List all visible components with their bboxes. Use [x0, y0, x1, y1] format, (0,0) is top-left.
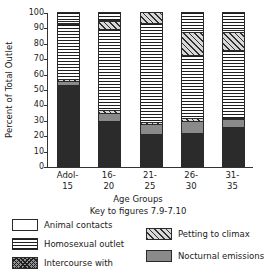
x-axis-tick-label-line: 35	[209, 181, 255, 192]
legend-swatch-checker	[12, 257, 38, 269]
y-axis-tick-label: 40	[18, 101, 44, 109]
bar-segment-homosexual2	[99, 13, 120, 21]
bar-segment-intercourse	[99, 122, 120, 166]
bar-segment-homosexual2	[182, 13, 203, 31]
bar-segment-petting2	[223, 33, 244, 51]
y-axis-title: Percent of Total Outlet	[2, 20, 16, 160]
y-axis-tick-mark	[44, 75, 48, 76]
bars-container	[48, 13, 253, 168]
y-axis-tick-mark	[44, 44, 48, 45]
bar-segment-intercourse	[58, 86, 79, 166]
x-axis-tick-label-line: 25	[127, 181, 173, 192]
y-axis-tick-label: 70	[18, 55, 44, 63]
bar-segment-nocturnal	[141, 125, 162, 136]
bar-segment-homosexual	[141, 24, 162, 123]
y-axis-tick-label: 20	[18, 132, 44, 140]
bar-segment-petting2	[99, 22, 120, 30]
y-axis-tick-mark	[44, 167, 48, 168]
y-axis-tick-label: 60	[18, 71, 44, 79]
y-axis-tick-mark	[44, 28, 48, 29]
bar-segment-homosexual	[99, 30, 120, 111]
x-axis-tick-labels: Adol-1516-2021-2526-3031-35	[47, 170, 253, 194]
x-axis-tick-label-line: 31-	[209, 170, 255, 181]
x-axis-tick-label-line: 21-	[127, 170, 173, 181]
bar-segment-intercourse	[141, 135, 162, 166]
bar-segment-homosexual2	[223, 13, 244, 31]
bar-2	[98, 12, 121, 167]
legend-title: Key to figures 7.9-7.10	[0, 206, 276, 216]
bar-segment-homosexual	[223, 51, 244, 118]
bar-segment-homosexual	[182, 56, 203, 119]
bar-segment-petting2	[141, 13, 162, 24]
y-axis-tick-mark	[44, 59, 48, 60]
bar-segment-intercourse	[182, 134, 203, 166]
legend-swatch-white	[12, 219, 38, 231]
bar-4	[181, 12, 204, 167]
stacked-bar-chart: Percent of Total Outlet 1009080706050403…	[0, 0, 276, 196]
y-axis-tick-mark	[44, 136, 48, 137]
y-axis-tick-label: 30	[18, 117, 44, 125]
x-axis-tick-label-line: 16-	[86, 170, 132, 181]
bar-1	[57, 12, 80, 167]
legend-label: Intercourse with	[44, 258, 113, 268]
y-axis-tick-mark	[44, 90, 48, 91]
legend-item: Intercourse with	[12, 257, 113, 269]
legend-swatch-solid-gray	[146, 250, 172, 262]
x-axis-tick-label-line: Adol-	[45, 170, 91, 181]
legend-swatch-diagonal-hatch	[146, 228, 172, 240]
y-axis-tick-mark	[44, 121, 48, 122]
y-axis-tick-label: 80	[18, 40, 44, 48]
x-axis-tick-label-line: 20	[86, 181, 132, 192]
bar-segment-nocturnal	[99, 114, 120, 122]
x-axis-tick-label-line: 26-	[168, 170, 214, 181]
y-axis-tick-mark	[44, 105, 48, 106]
x-axis-tick-label-line: 30	[168, 181, 214, 192]
bar-3	[140, 12, 163, 167]
legend-label: Homosexual outlet	[44, 239, 124, 249]
y-axis-tick-mark	[44, 13, 48, 14]
y-axis-tick-label: 90	[18, 24, 44, 32]
y-axis-tick-label: 10	[18, 148, 44, 156]
legend-item: Homosexual outlet	[12, 238, 124, 250]
bar-segment-nocturnal	[223, 120, 244, 128]
x-axis-tick-label: Adol-15	[45, 170, 91, 192]
y-axis-tick-label: 100	[18, 9, 44, 17]
x-axis-tick-label: 21-25	[127, 170, 173, 192]
bar-segment-homosexual	[58, 25, 79, 80]
bar-5	[222, 12, 245, 167]
plot-area	[47, 13, 253, 168]
bar-segment-intercourse	[223, 128, 244, 166]
legend-swatch-horizontal-lines	[12, 238, 38, 250]
x-axis-tick-label-line: 15	[45, 181, 91, 192]
y-axis-tick-label: 50	[18, 86, 44, 94]
bar-segment-petting2	[182, 33, 203, 56]
legend-label: Animal contacts	[44, 220, 112, 230]
legend-item: Petting to climax	[146, 228, 250, 240]
x-axis-tick-label: 26-30	[168, 170, 214, 192]
legend-label: Nocturnal emissions	[178, 251, 264, 261]
x-axis-tick-label: 31-35	[209, 170, 255, 192]
x-axis-tick-label: 16-20	[86, 170, 132, 192]
bar-segment-homosexual2	[58, 13, 79, 22]
bar-segment-nocturnal	[182, 122, 203, 134]
legend-item: Animal contacts	[12, 219, 112, 231]
legend: Animal contactsHomosexual outletIntercou…	[0, 219, 276, 274]
y-axis-tick-label: 0	[18, 163, 44, 171]
y-axis-tick-labels: 1009080706050403020100	[18, 13, 44, 168]
legend-label: Petting to climax	[178, 229, 250, 239]
legend-item: Nocturnal emissions	[146, 250, 264, 262]
x-axis-title: Age Groups	[0, 194, 276, 204]
y-axis-tick-mark	[44, 152, 48, 153]
